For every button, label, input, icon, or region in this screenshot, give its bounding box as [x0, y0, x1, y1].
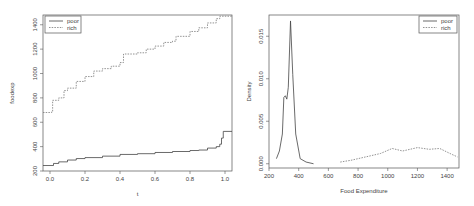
- y-axis-label: Density: [246, 81, 252, 101]
- x-tick-label: 600: [323, 173, 334, 179]
- x-tick-label: 1200: [411, 173, 425, 179]
- x-tick-label: 0.8: [186, 176, 195, 182]
- x-tick-label: 0.4: [116, 176, 125, 182]
- x-tick-label: 1400: [440, 173, 454, 179]
- y-tick-label: 0.005: [258, 113, 264, 129]
- y-tick-label: 400: [32, 141, 38, 152]
- y-tick-label: 0.015: [258, 28, 264, 44]
- quantile-plot: 0.00.20.40.60.81.02004006008001000120014…: [9, 15, 232, 197]
- series-rich: [43, 16, 232, 112]
- y-tick-label: 800: [32, 92, 38, 103]
- legend-label-poor: poor: [441, 18, 453, 24]
- x-tick-label: 800: [353, 173, 364, 179]
- x-tick-label: 0.2: [81, 176, 90, 182]
- y-tick-label: 600: [32, 117, 38, 128]
- x-tick-label: 400: [294, 173, 305, 179]
- y-tick-label: 200: [32, 165, 38, 176]
- legend-label-rich: rich: [441, 25, 451, 31]
- x-tick-label: 0.6: [151, 176, 160, 182]
- y-tick-label: 1400: [32, 17, 38, 31]
- y-tick-label: 1200: [32, 42, 38, 56]
- x-axis-label: Food Expenditure: [340, 188, 388, 194]
- x-tick-label: 1.0: [221, 176, 230, 182]
- y-tick-label: 0.010: [258, 71, 264, 87]
- series-rich: [340, 148, 457, 162]
- series-poor: [43, 131, 232, 165]
- x-axis-label: t: [137, 191, 139, 197]
- x-tick-label: 200: [264, 173, 275, 179]
- y-tick-label: 1000: [32, 66, 38, 80]
- y-axis-label: foodexp: [9, 82, 15, 104]
- legend-label-poor: poor: [67, 18, 79, 24]
- y-tick-label: 0.000: [258, 156, 264, 172]
- x-tick-label: 0.0: [46, 176, 55, 182]
- chart-canvas: 0.00.20.40.60.81.02004006008001000120014…: [0, 0, 474, 206]
- x-tick-label: 1000: [381, 173, 395, 179]
- plot-frame: [43, 15, 232, 171]
- legend-label-rich: rich: [67, 25, 77, 31]
- density-plot: 2004006008001000120014000.0000.0050.0100…: [246, 15, 459, 194]
- series-poor: [276, 21, 313, 164]
